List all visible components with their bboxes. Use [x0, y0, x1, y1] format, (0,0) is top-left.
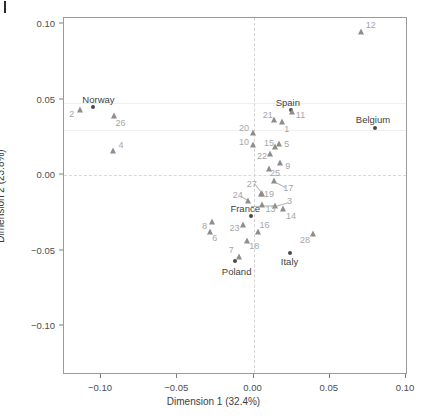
y-tick-label: 0.00: [37, 169, 56, 180]
brand-marker[interactable]: [236, 254, 242, 260]
brand-marker[interactable]: [276, 140, 282, 146]
brand-marker[interactable]: [259, 201, 265, 207]
y-tick-label: 0.05: [37, 93, 56, 104]
brand-marker[interactable]: [280, 206, 286, 212]
x-tick-label: 0.05: [320, 382, 339, 393]
brand-label: 27: [247, 179, 257, 189]
brand-label: 22: [257, 151, 267, 161]
brand-label: 12: [366, 20, 376, 30]
y-tick-mark: [59, 174, 63, 175]
brand-label: 24: [233, 190, 243, 200]
brand-label: 1: [284, 124, 289, 134]
brand-marker[interactable]: [240, 222, 246, 228]
zero-line-horizontal: [64, 175, 406, 176]
y-tick-label: −0.10: [31, 320, 55, 331]
brand-marker[interactable]: [289, 109, 295, 115]
brand-marker[interactable]: [267, 150, 273, 156]
x-axis-label: Dimension 1 (32.4%): [0, 396, 427, 407]
brand-marker[interactable]: [277, 159, 283, 165]
brand-label: 17: [283, 183, 293, 193]
country-label: Poland: [222, 265, 252, 276]
y-tick-label: −0.05: [31, 244, 55, 255]
brand-marker[interactable]: [250, 130, 256, 136]
y-tick-mark: [59, 98, 63, 99]
country-label: Belgium: [356, 113, 390, 124]
brand-marker[interactable]: [271, 178, 277, 184]
country-label: France: [230, 203, 260, 214]
brand-label: 6: [212, 233, 217, 243]
brand-label: 11: [296, 110, 305, 120]
brand-label: 23: [229, 223, 239, 233]
brand-marker[interactable]: [245, 197, 251, 203]
brand-marker[interactable]: [77, 107, 83, 113]
brand-label: 21: [263, 110, 273, 120]
x-tick-mark: [253, 374, 254, 378]
brand-label: 26: [116, 118, 126, 128]
faint-gridline: [64, 130, 406, 131]
x-tick-label: 0.10: [396, 382, 415, 393]
country-label: Spain: [276, 96, 300, 107]
brand-label: 16: [259, 220, 269, 230]
brand-label: 28: [300, 235, 310, 245]
brand-marker[interactable]: [250, 141, 256, 147]
brand-marker[interactable]: [358, 28, 364, 34]
brand-label: 18: [249, 241, 259, 251]
x-tick-mark: [405, 374, 406, 378]
brand-label: 2: [69, 109, 74, 119]
country-marker[interactable]: [288, 251, 292, 255]
brand-label: 9: [285, 161, 290, 171]
y-tick-mark: [59, 325, 63, 326]
brand-label: 3: [287, 196, 292, 206]
x-tick-label: −0.05: [164, 382, 188, 393]
faint-gridline: [64, 103, 406, 104]
country-marker[interactable]: [249, 214, 253, 218]
country-marker[interactable]: [373, 126, 377, 130]
scatter-plot: 0.100.050.00−0.05−0.10−0.10−0.050.000.05…: [0, 0, 427, 420]
country-marker[interactable]: [91, 105, 95, 109]
x-tick-label: −0.10: [88, 382, 112, 393]
brand-marker[interactable]: [110, 147, 116, 153]
x-tick-label: 0.00: [243, 382, 262, 393]
brand-label: 4: [119, 140, 124, 150]
country-label: Norway: [82, 93, 114, 104]
brand-label: 5: [284, 139, 289, 149]
brand-label: 10: [239, 137, 249, 147]
brand-label: 7: [229, 245, 234, 255]
y-axis-label: Dimension 2 (23.8%): [0, 149, 6, 242]
brand-label: 19: [264, 189, 274, 199]
country-label: Italy: [281, 256, 298, 267]
x-tick-mark: [100, 374, 101, 378]
brand-marker[interactable]: [310, 230, 316, 236]
brand-label: 14: [286, 211, 296, 221]
y-tick-mark: [59, 23, 63, 24]
brand-marker[interactable]: [279, 118, 285, 124]
brand-label: 15: [264, 138, 274, 148]
brand-marker[interactable]: [209, 218, 215, 224]
x-tick-mark: [176, 374, 177, 378]
x-tick-mark: [329, 374, 330, 378]
brand-label: 20: [239, 123, 249, 133]
y-tick-label: 0.10: [37, 18, 56, 29]
zero-line-vertical: [254, 18, 255, 373]
y-tick-mark: [59, 249, 63, 250]
brand-label: 13: [265, 204, 275, 214]
country-marker[interactable]: [233, 259, 237, 263]
